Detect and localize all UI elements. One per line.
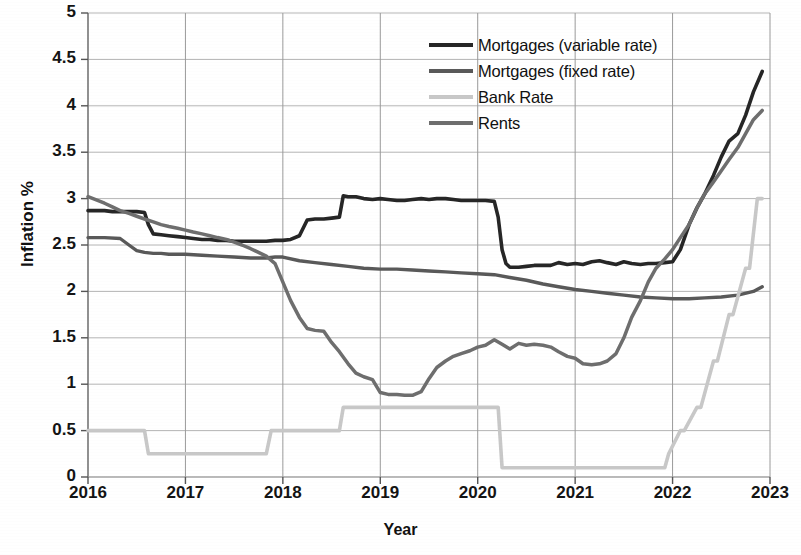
series-line-1	[88, 238, 762, 299]
legend-item-1[interactable]: Mortgages (fixed rate)	[429, 58, 769, 84]
legend-item-label: Rents	[478, 114, 520, 133]
legend-item-label: Bank Rate	[478, 88, 553, 107]
legend-item-0[interactable]: Mortgages (variable rate)	[429, 32, 769, 58]
chart-legend: Mortgages (variable rate)Mortgages (fixe…	[429, 32, 769, 136]
inflation-line-chart: Inflation % Year 00.511.522.533.544.55 2…	[0, 0, 801, 555]
legend-line-swatch-icon	[429, 95, 473, 99]
legend-item-label: Mortgages (fixed rate)	[478, 62, 635, 81]
legend-item-2[interactable]: Bank Rate	[429, 84, 769, 110]
legend-line-swatch-icon	[429, 43, 473, 47]
legend-line-swatch-icon	[429, 69, 473, 73]
legend-line-swatch-icon	[429, 121, 473, 125]
legend-item-3[interactable]: Rents	[429, 110, 769, 136]
legend-item-label: Mortgages (variable rate)	[478, 36, 657, 55]
